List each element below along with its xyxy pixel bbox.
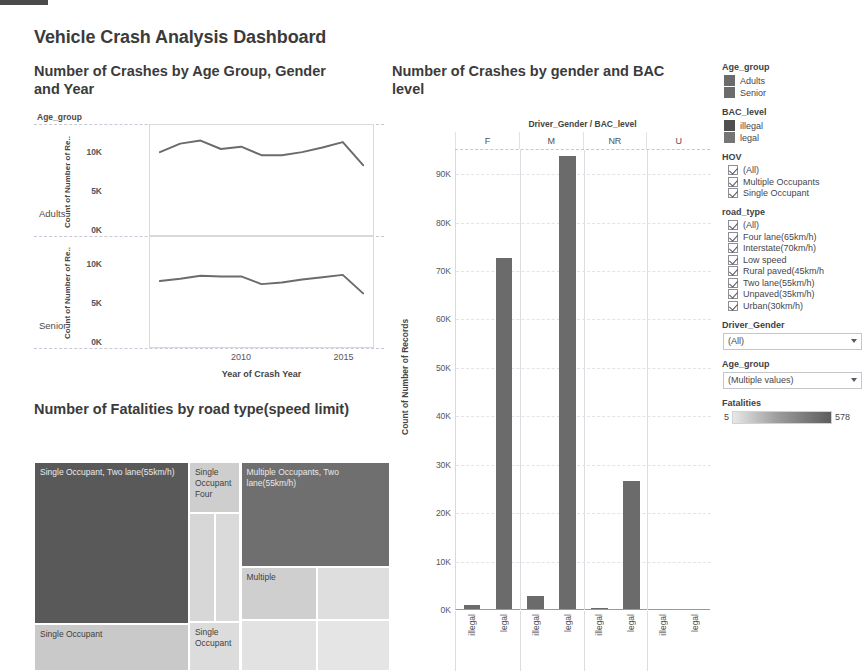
line-chart-subplot-adults[interactable] [149, 124, 374, 236]
checkbox-checked-icon[interactable] [728, 278, 738, 288]
hov-filter-row[interactable]: (All) [728, 165, 865, 175]
page-title: Vehicle Crash Analysis Dashboard [34, 27, 326, 48]
bar-m-legal[interactable] [559, 156, 576, 609]
road-type-filter-row[interactable]: Unpaved(35km/h) [728, 289, 865, 299]
bar-chart-xtick-label: illegal [594, 614, 604, 636]
treemap-tile[interactable]: Single Occupant Four [189, 462, 241, 513]
driver-gender-filter-title: Driver_Gender [722, 320, 865, 330]
line-chart-xaxis-ticks: 20102015 [149, 352, 374, 366]
treemap-tile[interactable] [317, 567, 390, 620]
bar-chart-ytick: 40K [436, 411, 451, 421]
bar-chart-ytick: 30K [436, 460, 451, 470]
hov-filter-row[interactable]: Single Occupant [728, 188, 865, 198]
bar-chart-xtick-label: illegal [467, 614, 477, 636]
color-swatch-icon [724, 75, 735, 86]
bar-nr-legal[interactable] [623, 481, 640, 609]
checkbox-checked-icon[interactable] [728, 301, 738, 311]
line-chart-agegroup-caption: Age_group [37, 112, 82, 122]
bac-level-legend-item[interactable]: illegal [724, 120, 865, 131]
driver-gender-value: (All) [728, 336, 851, 346]
checkbox-checked-icon[interactable] [728, 232, 738, 242]
bar-chart-ytick: 50K [436, 363, 451, 373]
line-chart-plot-area[interactable]: Count of Number of Re.. Count of Number … [34, 124, 384, 349]
road-type-filter-row[interactable]: Urban(30km/h) [728, 301, 865, 311]
treemap-tile[interactable]: Single Occupant [189, 622, 241, 671]
treemap-tile[interactable]: Multiple Occupants, Two lane(55km/h) [241, 462, 391, 567]
road-type-filter: road_type (All)Four lane(65km/h)Intersta… [722, 207, 865, 311]
bar-m-illegal[interactable] [527, 596, 544, 609]
bac-level-legend: BAC_level illegallegal [722, 107, 865, 143]
bar-chart-xtick-cell: illegal [520, 611, 552, 671]
bar-chart-xtick-cell: legal [488, 611, 520, 671]
line-chart-ytick: 0K [91, 337, 102, 347]
treemap-tile[interactable] [189, 513, 215, 622]
bar-chart-xtick-label: legal [690, 614, 700, 632]
treemap-tile[interactable]: Multiple [241, 567, 318, 620]
bar-f-illegal[interactable] [464, 605, 481, 609]
checkbox-checked-icon[interactable] [728, 220, 738, 230]
bar-chart-ytick: 80K [436, 218, 451, 228]
bac-level-legend-title: BAC_level [722, 107, 865, 117]
bar-chart-xtick-cell: legal [615, 611, 647, 671]
road-type-filter-label: Interstate(70km/h) [743, 243, 816, 253]
line-chart-title: Number of Crashes by Age Group, Gender a… [34, 62, 354, 98]
bar-chart-plot-area[interactable] [455, 150, 710, 610]
bac-level-legend-item[interactable]: legal [724, 132, 865, 143]
treemap-plot-area[interactable]: Single Occupant, Two lane(55km/h)Single … [34, 462, 390, 671]
line-chart-ytick: 5K [91, 298, 102, 308]
checkbox-checked-icon[interactable] [728, 255, 738, 265]
road-type-filter-row[interactable]: Interstate(70km/h) [728, 243, 865, 253]
bac-level-legend-label: illegal [740, 121, 763, 131]
road-type-filter-row[interactable]: Rural paved(45km/h [728, 266, 865, 276]
checkbox-checked-icon[interactable] [728, 289, 738, 299]
age-group-legend-item[interactable]: Adults [724, 75, 865, 86]
bar-chart-ytick: 0K [441, 605, 451, 615]
bar-chart-group-separator [584, 150, 585, 610]
line-chart-xtick: 2010 [231, 352, 251, 362]
driver-gender-select[interactable]: (All) [723, 333, 862, 350]
bar-chart-xtick-cell: legal [552, 611, 584, 671]
driver-gender-filter: Driver_Gender (All) [722, 320, 865, 350]
color-swatch-icon [724, 132, 735, 143]
bar-chart-title: Number of Crashes by gender and BAC leve… [392, 62, 697, 98]
checkbox-checked-icon[interactable] [728, 177, 738, 187]
road-type-filter-label: Four lane(65km/h) [743, 232, 817, 242]
hov-filter: HOV (All)Multiple OccupantsSingle Occupa… [722, 152, 865, 198]
road-type-filter-row[interactable]: (All) [728, 220, 865, 230]
bar-f-legal[interactable] [496, 258, 513, 609]
treemap-tile[interactable] [241, 620, 318, 671]
line-series-adults [160, 141, 363, 166]
age-group-legend-item[interactable]: Senior [724, 87, 865, 98]
age-group-legend: Age_group AdultsSenior [722, 62, 865, 98]
treemap-tile[interactable]: Single Occupant [34, 624, 189, 671]
bar-chart-yaxis: 0K10K20K30K40K50K60K70K80K90K [410, 150, 455, 610]
fatalities-gradient-bar [732, 411, 832, 424]
dashboard-root: Vehicle Crash Analysis Dashboard Number … [0, 0, 865, 671]
checkbox-checked-icon[interactable] [728, 243, 738, 253]
bar-chart-xtick-label: legal [626, 614, 636, 632]
age-group-legend-label: Senior [740, 88, 766, 98]
line-chart-subplot-senior[interactable] [149, 236, 374, 348]
checkbox-checked-icon[interactable] [728, 188, 738, 198]
road-type-filter-row[interactable]: Two lane(55km/h) [728, 278, 865, 288]
bar-chart-ytick: 90K [436, 169, 451, 179]
fatalities-max-label: 578 [835, 412, 850, 422]
hov-filter-row[interactable]: Multiple Occupants [728, 177, 865, 187]
checkbox-checked-icon[interactable] [728, 165, 738, 175]
bar-nr-illegal[interactable] [591, 608, 608, 610]
treemap-tile[interactable] [215, 513, 241, 622]
fatalities-gradient-row[interactable]: 5 578 [724, 411, 865, 424]
road-type-filter-row[interactable]: Four lane(65km/h) [728, 232, 865, 242]
bar-chart-group-separator [647, 150, 648, 610]
bar-chart-group-header-u: U [646, 132, 710, 149]
bar-chart-xtick-cell: legal [679, 611, 711, 671]
treemap-tile[interactable] [317, 620, 390, 671]
age-group-legend-title: Age_group [722, 62, 865, 72]
road-type-filter-label: (All) [743, 220, 759, 230]
treemap-tile[interactable]: Single Occupant, Two lane(55km/h) [34, 462, 189, 624]
age-group-filter-title: Age_group [722, 359, 865, 369]
checkbox-checked-icon[interactable] [728, 266, 738, 276]
bar-chart-xaxis-ticks: illegallegalillegallegalillegallegalille… [455, 611, 710, 671]
age-group-select[interactable]: (Multiple values) [723, 372, 862, 389]
road-type-filter-row[interactable]: Low speed [728, 255, 865, 265]
